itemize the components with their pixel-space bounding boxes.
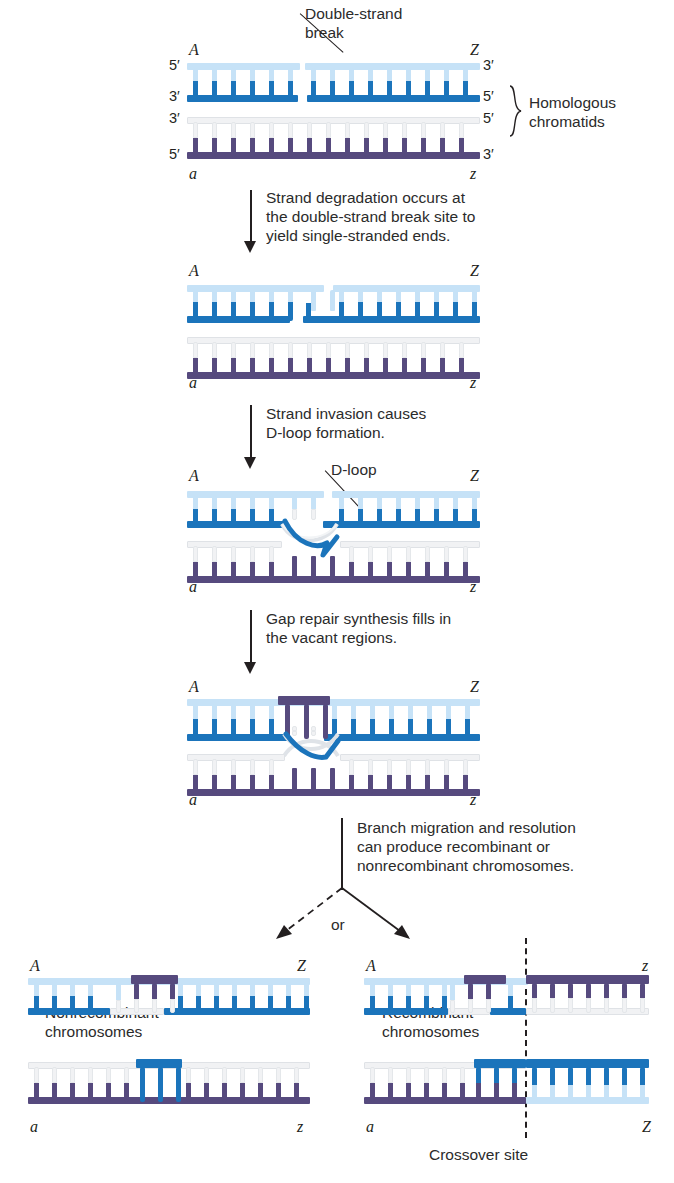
- dna-base-pair-rung: [214, 983, 219, 1013]
- dna-base-pair-rung: [294, 1067, 299, 1102]
- dna-base-pair-rung: [250, 546, 255, 581]
- dna-base-pair-rung: [288, 122, 293, 157]
- dna-base-pair-rung: [231, 68, 236, 100]
- dna-base-pair-rung: [250, 122, 255, 157]
- panel-2-label-Z: Z: [470, 262, 479, 280]
- dna-base-pair-rung: [250, 704, 255, 739]
- panel-6-label-a: a: [366, 1118, 374, 1136]
- dna-base-pair-rung: [304, 983, 309, 1013]
- dna-base-pair-rung: [276, 1067, 281, 1102]
- panel-4-label-Z: Z: [470, 678, 479, 696]
- dna-base-pair-rung: [459, 122, 464, 157]
- dna-base-pair-rung: [330, 768, 335, 794]
- dna-base-pair-rung: [508, 983, 513, 1013]
- dna-base-pair-rung: [604, 983, 609, 1013]
- dna-base-pair-rung: [193, 759, 198, 794]
- dna-base-pair-rung: [178, 983, 183, 1013]
- dna-base-pair-rung: [550, 1067, 555, 1102]
- step-2-text: Strand invasion causes D-loop formation.: [266, 404, 426, 442]
- dna-base-pair-rung: [640, 983, 645, 1013]
- dna-base-pair-rung: [364, 122, 369, 157]
- dna-base-pair-rung: [387, 759, 392, 794]
- dna-base-pair-rung: [134, 983, 139, 1013]
- dna-base-pair-rung: [231, 759, 236, 794]
- panel-5-label-z: z: [297, 1118, 303, 1136]
- dna-base-pair-rung: [421, 122, 426, 157]
- dna-base-pair-rung: [204, 1067, 209, 1102]
- dna-base-pair-rung: [88, 983, 93, 1013]
- panel-1-label-A: A: [189, 41, 199, 59]
- panel-1-label-a: a: [189, 165, 197, 183]
- dna-base-pair-rung: [406, 546, 411, 581]
- panel-5-label-a: a: [30, 1118, 38, 1136]
- step-3-text: Gap repair synthesis fills in the vacant…: [266, 609, 451, 647]
- dna-base-pair-rung: [383, 122, 388, 157]
- dna-base-pair-rung: [326, 342, 331, 377]
- dna-base-pair-rung: [425, 759, 430, 794]
- dna-base-pair-rung: [476, 1067, 481, 1102]
- dna-base-pair-rung: [231, 122, 236, 157]
- dna-base-pair-rung: [351, 704, 356, 739]
- dna-base-pair-rung: [434, 290, 439, 321]
- dna-base-pair-rung: [88, 1067, 93, 1102]
- dna-base-pair-rung: [450, 983, 455, 1013]
- dna-base-pair-rung: [463, 68, 468, 100]
- callout-or: or: [331, 915, 345, 934]
- dna-base-pair-rung: [532, 1067, 537, 1102]
- dna-base-pair-rung: [193, 290, 198, 321]
- dna-base-pair-rung: [345, 122, 350, 157]
- dna-base-pair-rung: [269, 546, 274, 581]
- dna-base-pair-rung: [453, 496, 458, 526]
- dna-base-pair-rung: [269, 496, 274, 526]
- dna-base-pair-rung: [468, 983, 473, 1013]
- dna-base-pair-rung: [425, 546, 430, 581]
- dna-base-pair-rung: [250, 983, 255, 1013]
- dna-base-pair-rung: [444, 759, 449, 794]
- dna-base-pair-rung: [444, 546, 449, 581]
- dna-base-pair-rung: [231, 290, 236, 321]
- dna-base-pair-rung: [345, 342, 350, 377]
- dna-base-pair-rung: [258, 1067, 263, 1102]
- dna-base-pair-rung: [368, 68, 373, 100]
- dna-base-pair-rung: [240, 1067, 245, 1102]
- dna-base-pair-rung: [250, 68, 255, 100]
- dna-base-pair-rung: [532, 983, 537, 1013]
- dna-base-pair-rung: [269, 704, 274, 739]
- dna-base-pair-rung: [311, 768, 316, 794]
- dna-base-pair-rung: [388, 983, 393, 1013]
- dna-base-pair-rung: [640, 1067, 645, 1102]
- dna-base-pair-rung: [463, 546, 468, 581]
- panel-2-label-A: A: [189, 262, 199, 280]
- dna-base-pair-rung: [222, 1067, 227, 1102]
- dna-base-pair-rung: [330, 290, 335, 310]
- panel-6-label-z: z: [642, 957, 648, 975]
- panel-1-prime-3-bot-right: 3′: [483, 146, 494, 162]
- dna-base-pair-rung: [427, 704, 432, 739]
- dna-base-pair-rung: [152, 983, 157, 1013]
- dna-base-pair-rung: [212, 68, 217, 100]
- dna-base-pair-rung: [512, 1067, 517, 1102]
- dna-base-pair-rung: [402, 342, 407, 377]
- dna-base-pair-rung: [377, 290, 382, 321]
- crossed-strand-blue: [282, 727, 344, 771]
- dna-base-pair-rung: [388, 1067, 393, 1102]
- panel-1-prime-3-mid-left: 3′: [169, 88, 180, 104]
- dna-base-pair-rung: [377, 496, 382, 526]
- dna-base-pair-rung: [269, 342, 274, 377]
- dna-base-pair-rung: [326, 122, 331, 157]
- dna-base-pair-rung: [307, 122, 312, 157]
- dna-base-pair-rung: [193, 704, 198, 739]
- dna-base-pair-rung: [622, 1067, 627, 1102]
- panel-1-prime-5-bot-left: 5′: [169, 146, 180, 162]
- dna-base-pair-rung: [358, 496, 363, 526]
- dna-base-pair-rung: [586, 983, 591, 1013]
- dna-base-pair-rung: [402, 122, 407, 157]
- dna-base-pair-rung: [406, 1067, 411, 1102]
- dna-base-pair-rung: [396, 290, 401, 321]
- dna-base-pair-rung: [494, 1067, 499, 1102]
- dna-base-pair-rung: [349, 759, 354, 794]
- dna-base-pair-rung: [231, 342, 236, 377]
- dna-base-pair-rung: [268, 983, 273, 1013]
- callout-double-strand-break: Double-strand break: [305, 4, 402, 42]
- dna-base-pair-rung: [622, 983, 627, 1013]
